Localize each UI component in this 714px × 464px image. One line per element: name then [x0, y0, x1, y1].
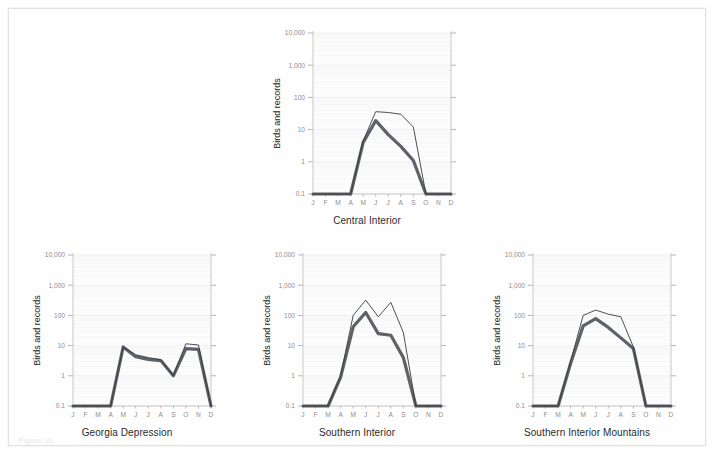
x-axis-tick-label: D — [669, 411, 674, 418]
y-axis-tick-label: 10 — [298, 126, 306, 133]
x-axis-tick-label: J — [607, 411, 610, 418]
x-axis-tick-label: J — [134, 411, 137, 418]
y-axis-tick-label: 10 — [288, 342, 296, 349]
x-axis-tick-label: J — [301, 411, 304, 418]
y-axis-tick-label: 0.1 — [56, 402, 65, 409]
x-axis-tick-label: S — [631, 411, 636, 418]
x-axis-tick-label: O — [643, 411, 648, 418]
chart-title: Southern Interior — [257, 427, 457, 438]
y-axis-tick-label: 1 — [301, 158, 305, 165]
x-axis-tick-label: M — [360, 199, 366, 206]
x-axis-tick-label: S — [401, 411, 406, 418]
x-axis-tick-label: A — [338, 411, 343, 418]
chart-panel: 0.11101001,00010,000JFMAMJJASONDBirds an… — [267, 27, 467, 212]
y-axis-tick-label: 1,000 — [278, 282, 295, 289]
x-axis-tick-label: F — [314, 411, 318, 418]
chart-plot-area: 0.11101001,00010,000JFMAMJJASONDBirds an… — [27, 249, 227, 424]
x-axis-tick-label: J — [374, 199, 377, 206]
y-axis-tick-label: 100 — [514, 312, 525, 319]
y-axis-tick-label: 0.1 — [296, 190, 305, 197]
x-axis-tick-label: J — [71, 411, 74, 418]
y-axis-tick-label: 10,000 — [505, 251, 526, 258]
x-axis-tick-label: S — [171, 411, 176, 418]
y-axis-tick-label: 1 — [521, 372, 525, 379]
x-axis-tick-label: N — [436, 199, 441, 206]
chart-title: Central Interior — [267, 215, 467, 226]
x-axis-tick-label: D — [439, 411, 444, 418]
y-axis-label: Birds and records — [262, 295, 272, 366]
x-axis-tick-label: O — [423, 199, 428, 206]
x-axis-tick-label: M — [350, 411, 356, 418]
x-axis-tick-label: A — [389, 411, 394, 418]
chart-title: Georgia Depression — [27, 427, 227, 438]
x-axis-tick-label: J — [387, 199, 390, 206]
y-axis-tick-label: 1 — [291, 372, 295, 379]
x-axis-tick-label: J — [531, 411, 534, 418]
x-axis-tick-label: D — [449, 199, 454, 206]
x-axis-tick-label: N — [196, 411, 201, 418]
chart-plot-area: 0.11101001,00010,000JFMAMJJASONDBirds an… — [267, 27, 467, 212]
y-axis-tick-label: 1 — [61, 372, 65, 379]
x-axis-tick-label: M — [555, 411, 561, 418]
chart-panel: 0.11101001,00010,000JFMAMJJASONDBirds an… — [257, 249, 457, 424]
x-axis-tick-label: A — [619, 411, 624, 418]
x-axis-tick-label: N — [426, 411, 431, 418]
y-axis-tick-label: 1,000 — [48, 282, 65, 289]
chart-plot-area: 0.11101001,00010,000JFMAMJJASONDBirds an… — [487, 249, 687, 424]
x-axis-tick-label: D — [209, 411, 214, 418]
x-axis-tick-label: M — [325, 411, 331, 418]
x-axis-tick-label: O — [183, 411, 188, 418]
y-axis-tick-label: 10 — [58, 342, 66, 349]
x-axis-tick-label: S — [411, 199, 416, 206]
figure-frame: 0.11101001,00010,000JFMAMJJASONDBirds an… — [8, 8, 706, 446]
x-axis-tick-label: M — [120, 411, 126, 418]
y-axis-tick-label: 100 — [54, 312, 65, 319]
x-axis-tick-label: M — [335, 199, 341, 206]
x-axis-tick-label: F — [324, 199, 328, 206]
y-axis-tick-label: 10,000 — [285, 29, 306, 36]
x-axis-tick-label: J — [311, 199, 314, 206]
x-axis-tick-label: J — [377, 411, 380, 418]
x-axis-tick-label: A — [159, 411, 164, 418]
chart-panel: 0.11101001,00010,000JFMAMJJASONDBirds an… — [27, 249, 227, 424]
y-axis-tick-label: 0.1 — [516, 402, 525, 409]
x-axis-tick-label: J — [594, 411, 597, 418]
x-axis-tick-label: A — [568, 411, 573, 418]
y-axis-tick-label: 100 — [294, 94, 305, 101]
x-axis-tick-label: M — [580, 411, 586, 418]
y-axis-tick-label: 100 — [284, 312, 295, 319]
x-axis-tick-label: J — [147, 411, 150, 418]
figure-caption: Figure 10. — [19, 436, 55, 445]
y-axis-tick-label: 10,000 — [45, 251, 66, 258]
y-axis-tick-label: 1,000 — [508, 282, 525, 289]
chart-panel: 0.11101001,00010,000JFMAMJJASONDBirds an… — [487, 249, 687, 424]
x-axis-tick-label: A — [108, 411, 113, 418]
y-axis-label: Birds and records — [492, 295, 502, 366]
y-axis-tick-label: 10 — [518, 342, 526, 349]
x-axis-tick-label: F — [544, 411, 548, 418]
y-axis-tick-label: 10,000 — [275, 251, 296, 258]
y-axis-label: Birds and records — [272, 78, 282, 149]
y-axis-tick-label: 1,000 — [288, 62, 305, 69]
x-axis-tick-label: N — [656, 411, 661, 418]
chart-title: Southern Interior Mountains — [487, 427, 687, 438]
x-axis-tick-label: J — [364, 411, 367, 418]
x-axis-tick-label: M — [95, 411, 101, 418]
x-axis-tick-label: A — [348, 199, 353, 206]
x-axis-tick-label: O — [413, 411, 418, 418]
y-axis-label: Birds and records — [32, 295, 42, 366]
y-axis-tick-label: 0.1 — [286, 402, 295, 409]
chart-plot-area: 0.11101001,00010,000JFMAMJJASONDBirds an… — [257, 249, 457, 424]
x-axis-tick-label: F — [84, 411, 88, 418]
x-axis-tick-label: A — [399, 199, 404, 206]
